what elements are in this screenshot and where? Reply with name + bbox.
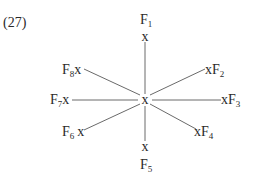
svg-text:F7x: F7x [50,92,69,109]
node-f8: F8x [62,62,81,79]
node-f1: F1 x [140,12,152,44]
svg-text:F6x: F6x [62,124,84,141]
center-marker: x [142,92,149,107]
node-f7: F7x [50,92,69,109]
svg-text:F8x: F8x [62,62,81,79]
spoke-f6 [84,104,140,130]
node-marker: x [142,29,149,44]
spoke-f2 [150,69,205,95]
svg-text:xF4: xF4 [194,124,214,141]
spoke-f4 [150,104,196,129]
node-marker: x [142,139,149,154]
node-f3: xF3 [221,92,241,109]
node-f6: F6x [62,124,84,141]
example-number: (27) [3,15,27,31]
node-f4: xF4 [194,124,214,141]
svg-text:xF2: xF2 [205,62,224,79]
svg-text:F5: F5 [140,157,153,174]
spoke-f8 [84,69,140,95]
star-diagram: (27) x F1 x xF2 xF3 xF4 x F5 F6x F7x F8x [0,0,254,179]
node-f2: xF2 [205,62,224,79]
svg-text:xF3: xF3 [221,92,241,109]
svg-text:F1: F1 [140,12,152,29]
node-f5: x F5 [140,139,153,174]
